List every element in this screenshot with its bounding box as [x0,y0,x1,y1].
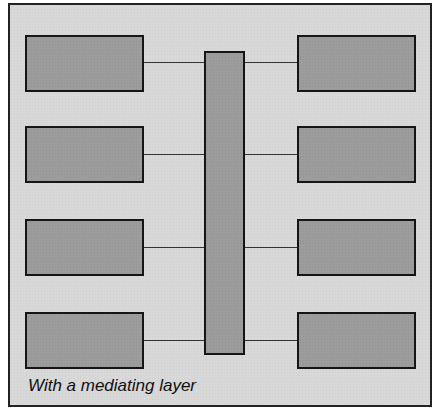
diagram-caption: With a mediating layer [28,376,196,396]
left-node-3 [25,219,144,276]
left-node-1 [25,35,144,92]
connector-right-4 [244,340,297,341]
connector-left-3 [143,247,204,248]
connector-left-1 [143,62,204,63]
connector-right-1 [244,62,297,63]
left-node-2 [25,126,144,183]
connector-right-2 [244,154,297,155]
left-node-4 [25,312,144,369]
right-node-2 [297,126,416,183]
right-node-1 [297,35,416,92]
connector-right-3 [244,247,297,248]
right-node-4 [297,312,416,369]
mediating-layer-bar [204,51,245,355]
right-node-3 [297,219,416,276]
connector-left-4 [143,340,204,341]
connector-left-2 [143,154,204,155]
